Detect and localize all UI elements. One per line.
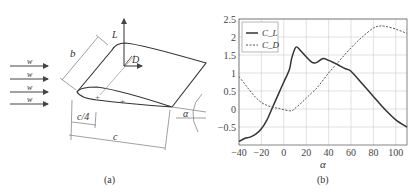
- span-label: b: [70, 47, 76, 59]
- quarter-chord-line: [100, 55, 135, 95]
- svg-text:1.5: 1.5: [224, 50, 237, 61]
- chord-dimensions: [69, 100, 170, 150]
- svg-text:−0.5: −0.5: [218, 122, 236, 133]
- legend-cd-label: C_D: [262, 40, 280, 50]
- quarter-chord-label: c/4: [77, 111, 89, 122]
- svg-text:40: 40: [324, 147, 334, 158]
- svg-text:0: 0: [231, 104, 236, 115]
- flow-label-2: w: [27, 70, 33, 79]
- svg-text:2: 2: [231, 32, 236, 43]
- flow-label-3: w: [27, 83, 33, 92]
- panel-a-airfoil-diagram: w w w w + + b L D: [10, 19, 206, 186]
- svg-text:0.5: 0.5: [224, 86, 237, 97]
- svg-text:80: 80: [368, 147, 378, 158]
- center-mark-2: +: [120, 96, 125, 106]
- angle-label: α: [183, 108, 189, 119]
- span-dimension: [60, 35, 108, 90]
- svg-text:2.5: 2.5: [224, 14, 237, 25]
- flow-label-1: w: [27, 57, 33, 66]
- panel-b-chart: 2.521.510.50−0.5 −40−20020406080100 C_L …: [218, 14, 407, 187]
- flow-label-4: w: [27, 95, 33, 104]
- svg-text:20: 20: [301, 147, 311, 158]
- x-axis-ticks: −40−20020406080100: [231, 147, 403, 158]
- y-axis-ticks: 2.521.510.50−0.5: [218, 14, 236, 133]
- legend: C_L C_D: [242, 22, 280, 52]
- x-axis-label: α: [320, 158, 326, 170]
- drag-leader: [124, 56, 132, 66]
- svg-text:1: 1: [231, 68, 236, 79]
- panel-b-caption: (b): [317, 174, 329, 186]
- svg-text:100: 100: [388, 147, 403, 158]
- lift-label: L: [111, 29, 118, 40]
- figure: w w w w + + b L D: [0, 0, 419, 195]
- panel-a-caption: (a): [104, 174, 115, 186]
- chord-label: c: [113, 131, 118, 142]
- svg-text:−40: −40: [231, 147, 247, 158]
- svg-text:60: 60: [346, 147, 356, 158]
- center-mark-1: +: [95, 92, 100, 102]
- legend-cl-label: C_L: [262, 28, 278, 38]
- svg-text:0: 0: [281, 147, 286, 158]
- drag-label: D: [131, 54, 140, 65]
- svg-text:−20: −20: [254, 147, 270, 158]
